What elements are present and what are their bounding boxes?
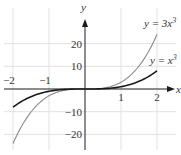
x-axis-arrow-icon [167, 86, 175, 92]
y-tick-label: −20 [65, 128, 83, 140]
y-axis-arrow-icon [82, 19, 88, 27]
x-tick-label: 2 [154, 91, 160, 103]
x-tick-label: 1 [118, 91, 124, 103]
series-label-3x3: y = 3x3 [143, 16, 176, 29]
y-tick-label: 20 [71, 38, 83, 50]
y-tick-label: −10 [65, 106, 83, 118]
curve-labels: y = 3x3 y = x3 [143, 16, 177, 66]
x-tick-label: −1 [39, 74, 51, 86]
series-label-x3: y = x3 [149, 53, 177, 66]
y-tick-label: 10 [71, 60, 83, 72]
y-axis-label: y [80, 1, 86, 13]
x-axis-label: x [175, 83, 181, 95]
cubic-functions-chart: x y −2−1122010−10−20 y = 3x3 y = x3 [0, 0, 181, 155]
x-tick-label: −2 [3, 74, 15, 86]
grid-lines [4, 8, 176, 150]
